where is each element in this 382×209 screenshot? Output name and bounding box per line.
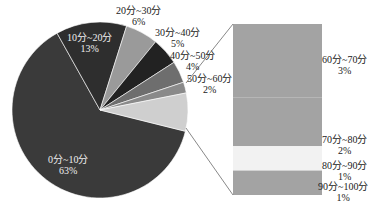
label-40-50: 40分~50分4% [170, 50, 215, 72]
label-30-40: 30分~40分5% [155, 27, 200, 49]
label-50-60: 50分~60分2% [187, 73, 232, 95]
bar-segment [233, 171, 322, 195]
label-90-100: 90分~100分1% [318, 181, 368, 203]
label-80-90: 80分~90分1% [322, 160, 367, 182]
label-10-20: 10分~20分13% [67, 32, 112, 54]
label-0-10: 0分~10分63% [48, 154, 88, 176]
bar-stack [233, 24, 322, 195]
label-60-70: 60分~70分3% [322, 54, 367, 76]
bar-segment [233, 146, 322, 170]
connector-line-bottom [186, 128, 233, 195]
label-20-30: 20分~30分6% [116, 5, 161, 27]
label-70-80: 70分~80分2% [322, 134, 367, 156]
bar-segment [233, 97, 322, 146]
bar-segment [233, 24, 322, 97]
